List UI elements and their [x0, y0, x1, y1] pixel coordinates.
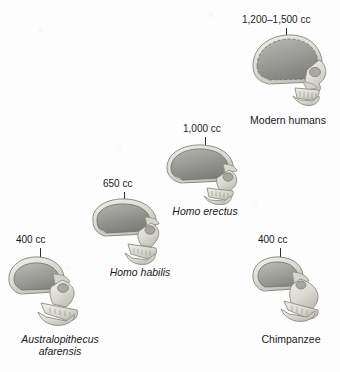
capacity-label-australopithecus: 400 cc — [16, 234, 45, 246]
capacity-label-chimpanzee: 400 cc — [258, 234, 287, 246]
species-label-australopithecus-line1: Australopithecus — [0, 333, 120, 345]
capacity-label-homo-erectus: 1,000 cc — [183, 123, 221, 135]
skull-illustration-australopithecus — [3, 248, 91, 332]
skull-modern-humans — [247, 30, 333, 112]
species-label-homo-erectus: Homo erectus — [160, 205, 250, 217]
skull-homo-erectus — [163, 136, 245, 210]
capacity-label-homo-habilis: 650 cc — [103, 178, 132, 190]
skull-chimpanzee — [248, 249, 332, 327]
skull-illustration-homo-erectus — [163, 136, 245, 210]
species-label-modern-humans: Modern humans — [240, 114, 336, 126]
skull-illustration-chimpanzee — [248, 249, 332, 327]
skull-illustration-modern-humans — [247, 30, 333, 112]
species-label-chimpanzee: Chimpanzee — [243, 333, 339, 345]
skull-illustration-homo-habilis — [88, 191, 172, 269]
cranial-capacity-figure: 1,200–1,500 cc — [0, 0, 340, 372]
species-label-homo-habilis: Homo habilis — [90, 266, 190, 278]
capacity-label-modern-humans: 1,200–1,500 cc — [242, 14, 310, 26]
skull-homo-habilis — [88, 191, 172, 269]
skull-australopithecus — [3, 248, 91, 332]
species-label-australopithecus-line2: afarensis — [0, 345, 120, 357]
